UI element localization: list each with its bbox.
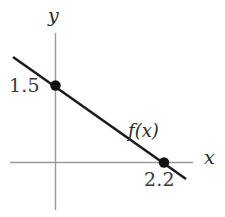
function-name-label: f(x) xyxy=(128,122,159,140)
y-intercept-value-label: 1.5 xyxy=(9,76,40,95)
x-intercept-value-label: 2.2 xyxy=(144,170,175,189)
y-axis-label: y xyxy=(48,6,59,25)
x-axis-label: x xyxy=(204,148,215,167)
function-graph-figure: y x 1.5 2.2 f(x) xyxy=(0,0,225,217)
graph-canvas xyxy=(0,0,225,217)
y-intercept-point xyxy=(50,80,60,90)
x-intercept-point xyxy=(159,157,169,167)
